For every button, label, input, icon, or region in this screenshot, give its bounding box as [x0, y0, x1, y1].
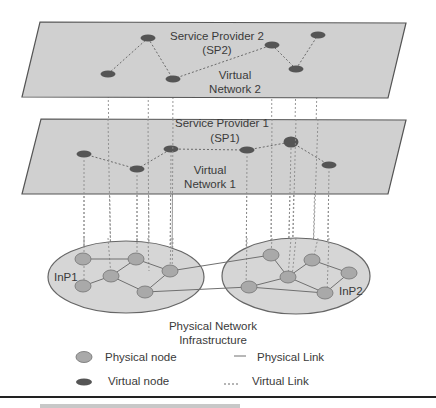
- virtual-network-embedding-diagram: Service Provider 2 (SP2) Virtual Network…: [0, 0, 436, 408]
- sp1-subtitle: (SP1): [210, 132, 240, 144]
- virtual-node: [101, 71, 116, 78]
- physical-node: [241, 281, 257, 293]
- virtual-node: [311, 32, 326, 39]
- physical-infrastructure: InP1 InP2 Physical Network Infrastructur…: [48, 238, 370, 346]
- sp2-title: Service Provider 2: [170, 30, 264, 42]
- legend-virtual-node-label: Virtual node: [108, 375, 169, 387]
- physical-node: [304, 254, 320, 266]
- legend-virtual-link-label: Virtual Link: [252, 375, 309, 387]
- physical-node: [263, 249, 279, 261]
- sp1-layer: Service Provider 1 (SP1) Virtual Network…: [22, 117, 406, 194]
- physical-title: Physical Network: [169, 320, 257, 332]
- vn2-label-line1: Virtual: [219, 69, 251, 81]
- virtual-node: [164, 146, 179, 153]
- physical-node: [341, 267, 357, 279]
- vn2-label-line2: Network 2: [209, 83, 261, 95]
- virtual-node: [77, 151, 92, 158]
- legend-physical-node-label: Physical node: [105, 351, 177, 363]
- legend-virtual-node-icon: [76, 379, 92, 386]
- physical-node: [75, 253, 91, 265]
- legend: Physical node Virtual node Physical Link…: [76, 351, 324, 387]
- virtual-node: [130, 166, 145, 173]
- vn1-label-line1: Virtual: [194, 164, 226, 176]
- virtual-node: [322, 162, 337, 169]
- physical-node: [128, 253, 144, 265]
- physical-node: [103, 270, 119, 282]
- virtual-node: [166, 76, 181, 83]
- sp1-title: Service Provider 1: [175, 117, 269, 129]
- virtual-node: [265, 42, 280, 49]
- legend-physical-node-icon: [76, 352, 92, 363]
- physical-node: [137, 286, 153, 298]
- physical-node: [317, 287, 333, 299]
- sp2-layer: Service Provider 2 (SP2) Virtual Network…: [22, 22, 406, 98]
- sp2-subtitle: (SP2): [202, 44, 232, 56]
- virtual-node: [289, 66, 304, 73]
- inp2-label: InP2: [339, 285, 363, 297]
- virtual-node: [240, 147, 255, 154]
- physical-subtitle: Infrastructure: [179, 334, 247, 346]
- physical-node: [280, 271, 296, 283]
- inp1-label: InP1: [54, 271, 78, 283]
- virtual-node: [141, 35, 156, 42]
- virtual-node: [284, 137, 299, 148]
- legend-physical-link-label: Physical Link: [257, 351, 324, 363]
- vn1-label-line2: Network 1: [184, 178, 236, 190]
- physical-node: [162, 265, 178, 277]
- cut-off-caption: [40, 404, 240, 408]
